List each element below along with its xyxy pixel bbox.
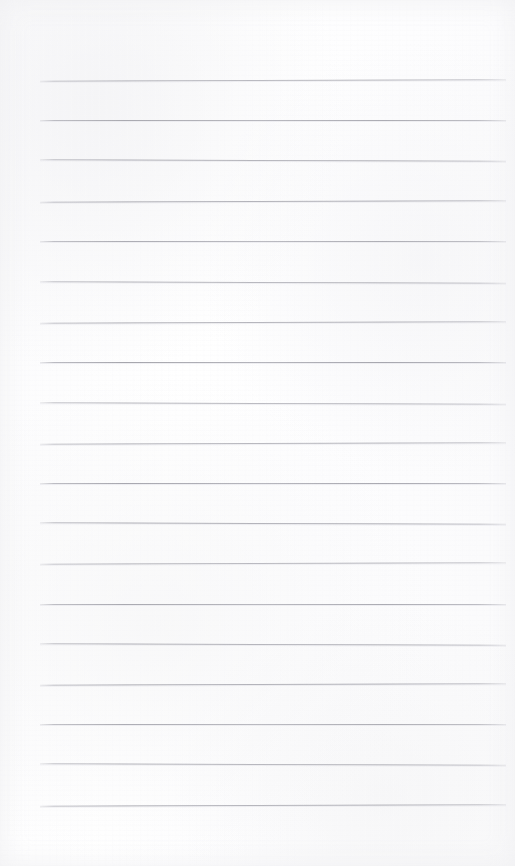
ruled-line (40, 683, 506, 685)
ruled-line (40, 402, 506, 404)
ruled-line (40, 321, 506, 323)
ruled-line (40, 483, 506, 484)
ruled-line (40, 362, 506, 363)
ruled-line (40, 200, 506, 202)
scanned-paper-page (0, 0, 515, 866)
ruled-line (40, 442, 506, 444)
ruled-line (40, 120, 506, 121)
ruled-line (40, 804, 506, 806)
ruled-line (40, 522, 506, 524)
ruled-line (40, 281, 506, 283)
ruled-lines-group (0, 0, 515, 866)
ruled-line (40, 159, 506, 161)
ruled-line (40, 562, 506, 564)
ruled-line (40, 604, 506, 605)
ruled-line (40, 79, 506, 81)
ruled-line (40, 643, 506, 645)
ruled-line (40, 241, 506, 242)
ruled-line (40, 763, 506, 765)
ruled-line (40, 724, 506, 725)
